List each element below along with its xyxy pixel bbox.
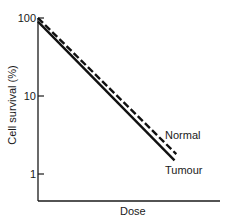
y-ticks: 100101 [18,12,44,180]
series-group: NormalTumour [38,18,203,176]
y-tick-label: 1 [30,168,36,180]
survival-chart: 100101 NormalTumour Cell survival (%) Do… [0,0,226,222]
x-axis-title: Dose [120,205,146,217]
series-line-tumour [38,22,175,161]
series-label-tumour: Tumour [165,164,203,176]
y-tick-label: 10 [24,90,36,102]
y-tick-label: 100 [18,12,36,24]
y-axis-title: Cell survival (%) [6,65,18,144]
series-line-normal [38,18,176,154]
series-label-normal: Normal [165,129,200,141]
